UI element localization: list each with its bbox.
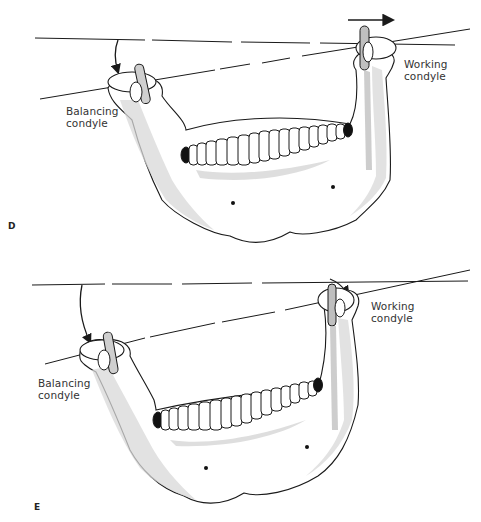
label-line: Working bbox=[371, 300, 415, 312]
label-line: condyle bbox=[371, 312, 415, 324]
label-line: Balancing bbox=[66, 105, 119, 117]
label-line: condyle bbox=[66, 117, 119, 129]
label-line: condyle bbox=[38, 389, 91, 401]
rotation-arrow-icon bbox=[115, 40, 118, 72]
label-line: Working bbox=[404, 58, 448, 70]
label-line: Balancing bbox=[38, 377, 91, 389]
working-condyle-label-d: Working condyle bbox=[404, 58, 448, 82]
label-line: condyle bbox=[404, 70, 448, 82]
panel-letter-e: E bbox=[34, 502, 40, 512]
panel-d bbox=[35, 20, 470, 242]
mental-foramen bbox=[204, 466, 208, 470]
mental-foramen bbox=[331, 185, 335, 189]
balancing-condyle-label-e: Balancing condyle bbox=[38, 377, 91, 401]
mental-foramen bbox=[231, 201, 235, 205]
mental-foramen bbox=[305, 445, 309, 449]
panel-letter-d: D bbox=[8, 221, 15, 231]
working-condyle-label-e: Working condyle bbox=[371, 300, 415, 324]
mandible-diagram: Balancing condyle Working condyle D Bala… bbox=[0, 0, 481, 522]
balancing-condyle-label-d: Balancing condyle bbox=[66, 105, 119, 129]
rotation-arrow-icon bbox=[80, 285, 90, 342]
